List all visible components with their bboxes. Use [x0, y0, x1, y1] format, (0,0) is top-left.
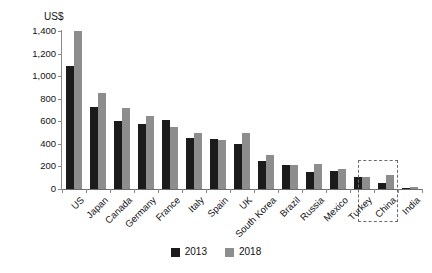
- y-axis-tick-label: 400: [40, 139, 56, 149]
- x-axis-tick-mark: [422, 189, 423, 193]
- bar-2018[interactable]: [338, 169, 346, 189]
- y-axis-tick-mark: [58, 54, 62, 55]
- bar-2018[interactable]: [290, 165, 298, 189]
- bar-2013[interactable]: [162, 120, 170, 189]
- bar-group: [114, 31, 130, 189]
- bar-2018[interactable]: [122, 108, 130, 189]
- bar-2013[interactable]: [306, 172, 314, 189]
- x-axis-tick-mark: [182, 189, 183, 193]
- y-axis-tick-label: 1,400: [32, 26, 56, 36]
- bar-group: [258, 31, 274, 189]
- x-axis-tick-mark: [62, 189, 63, 193]
- bar-2013[interactable]: [234, 144, 242, 189]
- bar-2013[interactable]: [66, 66, 74, 189]
- y-axis-tick-label: 1,200: [32, 49, 56, 59]
- bar-group: [210, 31, 226, 189]
- bar-chart: US$ 1,4001,2001,0008006004002000 2013 20…: [0, 0, 432, 273]
- x-axis-tick-mark: [350, 189, 351, 193]
- bar-group: [282, 31, 298, 189]
- bar-2018[interactable]: [146, 116, 154, 189]
- y-axis-tick-label: 1,000: [32, 71, 56, 81]
- bar-2018[interactable]: [194, 133, 202, 189]
- bar-group: [306, 31, 322, 189]
- y-axis-tick-mark: [58, 76, 62, 77]
- bar-2013[interactable]: [330, 171, 338, 189]
- x-axis-tick-mark: [398, 189, 399, 193]
- bar-2013[interactable]: [90, 107, 98, 189]
- x-axis-tick-mark: [86, 189, 87, 193]
- y-axis-tick-mark: [58, 121, 62, 122]
- x-axis-tick-mark: [302, 189, 303, 193]
- bar-group: [90, 31, 106, 189]
- y-axis-tick-mark: [58, 144, 62, 145]
- y-axis-tick-mark: [58, 99, 62, 100]
- bar-2018[interactable]: [242, 133, 250, 189]
- bar-2018[interactable]: [218, 140, 226, 189]
- bar-2013[interactable]: [258, 161, 266, 189]
- y-axis-tick-label: 800: [40, 94, 56, 104]
- bar-2013[interactable]: [210, 139, 218, 189]
- bar-2018[interactable]: [410, 187, 418, 189]
- bar-2013[interactable]: [114, 121, 122, 189]
- x-axis-tick-mark: [206, 189, 207, 193]
- y-axis-tick-mark: [58, 31, 62, 32]
- x-axis-tick-mark: [110, 189, 111, 193]
- bar-group: [186, 31, 202, 189]
- bar-2018[interactable]: [170, 127, 178, 189]
- bar-2018[interactable]: [74, 31, 82, 189]
- bar-2018[interactable]: [314, 164, 322, 189]
- bar-group: [138, 31, 154, 189]
- bar-2018[interactable]: [98, 93, 106, 189]
- bar-group: [330, 31, 346, 189]
- bar-group: [162, 31, 178, 189]
- y-axis-tick-label: 0: [51, 184, 56, 194]
- bar-group: [402, 31, 418, 189]
- x-axis-tick-mark: [278, 189, 279, 193]
- bar-2013[interactable]: [138, 124, 146, 189]
- bar-group: [234, 31, 250, 189]
- y-axis-tick-label: 200: [40, 161, 56, 171]
- y-axis-tick-mark: [58, 166, 62, 167]
- x-axis-tick-mark: [230, 189, 231, 193]
- x-axis-tick-mark: [374, 189, 375, 193]
- x-axis-tick-mark: [134, 189, 135, 193]
- x-axis-tick-mark: [158, 189, 159, 193]
- y-axis-tick-label: 600: [40, 116, 56, 126]
- x-axis-tick-mark: [326, 189, 327, 193]
- x-axis-tick-mark: [254, 189, 255, 193]
- bar-2018[interactable]: [266, 155, 274, 189]
- bar-2013[interactable]: [402, 188, 410, 189]
- bar-group: [66, 31, 82, 189]
- bar-2013[interactable]: [282, 165, 290, 189]
- bar-2013[interactable]: [186, 138, 194, 189]
